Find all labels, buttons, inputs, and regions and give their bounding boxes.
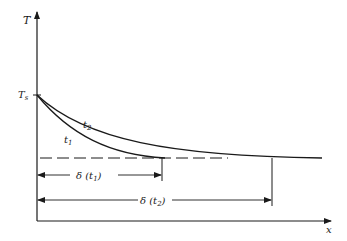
delta-t1-label: δ (t1) <box>76 170 102 183</box>
y-axis-label: T <box>23 14 32 27</box>
x-axis-label: x <box>326 224 332 235</box>
boundary-layer-diagram: T x Ts t1 t2 δ (t1) δ (t2) <box>0 0 347 241</box>
surface-temp-label: Ts <box>18 89 29 102</box>
curve-t1-label: t1 <box>64 134 73 147</box>
curve-t2 <box>37 95 322 158</box>
curve-t1 <box>37 95 165 158</box>
delta-t2-label: δ (t2) <box>140 195 166 208</box>
curve-t2-label: t2 <box>83 119 92 132</box>
